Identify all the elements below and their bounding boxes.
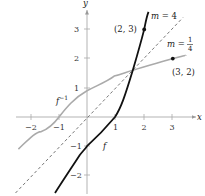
point-2-3-marker bbox=[142, 28, 146, 32]
function-label: f bbox=[102, 141, 108, 151]
point-3-2-label: (3, 2) bbox=[172, 67, 195, 77]
slope-value: = 4 bbox=[159, 11, 177, 21]
slope-numerator: 1 bbox=[188, 36, 192, 44]
function-inverse-figure: −2 −1 1 2 3 3 2 1 −1 −2 x y (2, 3) (3, 2… bbox=[0, 0, 205, 196]
y-tick-label: 2 bbox=[74, 54, 79, 63]
slope-m-symbol: m bbox=[167, 39, 175, 49]
y-tick-label: −2 bbox=[70, 171, 82, 180]
identity-line bbox=[16, 18, 184, 194]
chart-canvas: −2 −1 1 2 3 3 2 1 −1 −2 x y (2, 3) (3, 2… bbox=[0, 0, 205, 196]
y-axis-label: y bbox=[82, 0, 88, 8]
slope-m-symbol: m bbox=[151, 11, 159, 21]
inverse-function-label: f−1 bbox=[55, 94, 68, 106]
x-axis-label: x bbox=[197, 112, 202, 122]
point-3-2-marker bbox=[171, 57, 175, 61]
x-tick-label: 1 bbox=[113, 123, 118, 132]
point-2-3-label: (2, 3) bbox=[114, 24, 137, 34]
slope-equals: = bbox=[175, 39, 185, 49]
x-tick-label: −1 bbox=[53, 123, 65, 132]
y-tick-label: −1 bbox=[70, 142, 82, 151]
slope-denominator: 4 bbox=[188, 45, 193, 53]
y-tick-label: 3 bbox=[74, 25, 79, 34]
x-tick-label: 2 bbox=[142, 123, 147, 132]
x-tick-label: 3 bbox=[170, 123, 175, 132]
y-tick-label: 1 bbox=[74, 84, 79, 93]
slope-quarter-label: m = bbox=[167, 39, 185, 49]
finv-superscript: −1 bbox=[59, 94, 68, 101]
inverse-function-curve bbox=[18, 55, 185, 149]
x-tick-label: −2 bbox=[25, 123, 37, 132]
function-curve bbox=[55, 12, 149, 193]
slope-m4-label: m = 4 bbox=[151, 11, 177, 21]
